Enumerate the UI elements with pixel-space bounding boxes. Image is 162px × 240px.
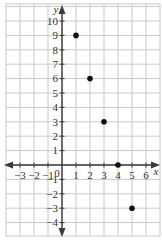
y-tick-label: 3 xyxy=(53,116,59,128)
y-tick-label: 2 xyxy=(53,130,59,142)
axes xyxy=(4,5,160,237)
y-tick-label: 4 xyxy=(53,101,59,113)
x-tick-label: 5 xyxy=(129,169,135,181)
data-point xyxy=(101,119,107,125)
scatter-chart: yx−3−2−11234560−4−3−2−112345678910 xyxy=(0,0,162,240)
y-tick-label: 6 xyxy=(53,72,59,84)
x-tick-label: 3 xyxy=(101,169,107,181)
y-tick-label: 10 xyxy=(47,15,59,27)
y-tick-label: −2 xyxy=(46,188,58,200)
data-point xyxy=(73,33,79,39)
y-tick-label: −1 xyxy=(46,173,58,185)
x-axis-left-arrow-icon xyxy=(4,162,13,169)
x-tick-label: 6 xyxy=(143,169,149,181)
grid-border xyxy=(6,4,160,236)
grid-lines xyxy=(6,4,160,236)
data-point xyxy=(129,205,135,211)
y-tick-label: −3 xyxy=(46,202,58,214)
x-tick-label: −2 xyxy=(28,169,40,181)
x-tick-label: 2 xyxy=(87,169,93,181)
y-tick-label: 8 xyxy=(53,44,59,56)
x-tick-label: −3 xyxy=(14,169,26,181)
y-tick-label: −4 xyxy=(46,216,58,228)
x-axis-label: x xyxy=(153,165,159,177)
y-tick-label: 1 xyxy=(53,144,59,156)
data-point xyxy=(115,162,121,168)
data-point xyxy=(87,76,93,82)
y-axis-label: y xyxy=(53,3,59,15)
y-tick-label: 9 xyxy=(53,29,59,41)
tick-labels: yx−3−2−11234560−4−3−2−112345678910 xyxy=(14,3,158,228)
x-tick-label: 4 xyxy=(115,169,121,181)
x-tick-label: 1 xyxy=(73,169,79,181)
y-tick-label: 5 xyxy=(53,87,59,99)
y-tick-label: 7 xyxy=(53,58,59,70)
